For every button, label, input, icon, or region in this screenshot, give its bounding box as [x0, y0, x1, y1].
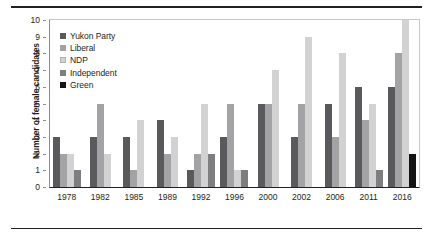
- legend-item-ndp[interactable]: NDP: [60, 55, 117, 65]
- bar-group-1985: [117, 20, 151, 187]
- bar-yukon-2000[interactable]: [258, 104, 265, 188]
- legend-item-yukon[interactable]: Yukon Party: [60, 31, 117, 41]
- bottom-rule: [11, 228, 422, 229]
- x-axis-tick-1985: 1985: [124, 192, 143, 202]
- x-axis-tick-2016: 2016: [393, 192, 412, 202]
- y-axis-tickmark-6: [43, 87, 46, 88]
- bar-group-1989: [151, 20, 185, 187]
- bar-liberal-2011[interactable]: [362, 120, 369, 187]
- bar-ndp-2000[interactable]: [272, 70, 279, 187]
- bar-liberal-1992[interactable]: [194, 154, 201, 187]
- y-axis-tickmark-0: [43, 187, 46, 188]
- bar-group-2000: [251, 20, 285, 187]
- legend-swatch-yukon-icon: [60, 33, 66, 39]
- bar-group-1996: [218, 20, 252, 187]
- x-axis-tick-1989: 1989: [158, 192, 177, 202]
- bar-liberal-2002[interactable]: [298, 104, 305, 188]
- y-axis-tickmark-8: [43, 53, 46, 54]
- x-axis-tick-1992: 1992: [191, 192, 210, 202]
- x-axis-tick-1982: 1982: [91, 192, 110, 202]
- y-axis-tick-1: 1: [35, 165, 40, 175]
- y-axis-tickmark-2: [43, 154, 46, 155]
- bar-group-1992: [184, 20, 218, 187]
- y-axis-tick-0: 0: [35, 182, 40, 192]
- bar-ndp-1989[interactable]: [171, 137, 178, 187]
- y-axis-tick-5: 5: [35, 99, 40, 109]
- x-axis-tick-2000: 2000: [259, 192, 278, 202]
- bar-liberal-2006[interactable]: [332, 137, 339, 187]
- legend-label-green: Green: [70, 80, 93, 90]
- bar-ndp-1996[interactable]: [234, 170, 241, 187]
- x-axis-tick-2011: 2011: [360, 192, 378, 202]
- bar-independent-2011[interactable]: [376, 170, 383, 187]
- bar-yukon-2011[interactable]: [355, 87, 362, 187]
- y-axis-tick-10: 10: [31, 15, 40, 25]
- y-axis-tickmark-3: [43, 137, 46, 138]
- legend-item-independent[interactable]: Independent: [60, 68, 117, 78]
- bar-ndp-1982[interactable]: [104, 154, 111, 187]
- bar-ndp-1992[interactable]: [201, 104, 208, 188]
- x-axis-tick-1978: 1978: [57, 192, 76, 202]
- y-axis-tick-2: 2: [35, 149, 40, 159]
- y-axis-tick-8: 8: [35, 48, 40, 58]
- legend-item-green[interactable]: Green: [60, 80, 117, 90]
- bar-yukon-1989[interactable]: [157, 120, 164, 187]
- bar-liberal-2000[interactable]: [265, 104, 272, 188]
- y-axis-tick-4: 4: [35, 115, 40, 125]
- legend-swatch-independent-icon: [60, 70, 66, 76]
- y-axis-tickmark-4: [43, 120, 46, 121]
- y-axis-tick-9: 9: [35, 32, 40, 42]
- bar-liberal-1985[interactable]: [130, 170, 137, 187]
- chart-legend: Yukon PartyLiberalNDPIndependentGreen: [60, 31, 117, 90]
- bar-yukon-2006[interactable]: [325, 104, 332, 188]
- y-axis-tick-3: 3: [35, 132, 40, 142]
- y-axis-tickmark-5: [43, 104, 46, 105]
- y-axis-tickmark-10: [43, 20, 46, 21]
- y-axis-tick-6: 6: [35, 82, 40, 92]
- bar-independent-1996[interactable]: [241, 170, 248, 187]
- bar-liberal-2016[interactable]: [395, 53, 402, 187]
- bar-independent-1992[interactable]: [208, 154, 215, 187]
- x-axis-tick-labels: 1978198219851989199219962000200220062011…: [50, 192, 419, 208]
- bar-ndp-2011[interactable]: [369, 104, 376, 188]
- legend-swatch-liberal-icon: [60, 45, 66, 51]
- legend-label-independent: Independent: [70, 68, 117, 78]
- bar-ndp-1978[interactable]: [67, 154, 74, 187]
- bar-group-2006: [318, 20, 352, 187]
- bar-group-2002: [285, 20, 319, 187]
- y-axis-tickmark-1: [43, 170, 46, 171]
- bar-group-2011: [352, 20, 386, 187]
- x-axis-tick-2002: 2002: [292, 192, 311, 202]
- legend-swatch-ndp-icon: [60, 57, 66, 63]
- y-axis-tick-labels: 012345678910: [0, 19, 46, 188]
- bar-liberal-1989[interactable]: [164, 154, 171, 187]
- bar-liberal-1978[interactable]: [60, 154, 67, 187]
- bar-yukon-1992[interactable]: [187, 170, 194, 187]
- bar-ndp-1985[interactable]: [137, 120, 144, 187]
- bar-liberal-1996[interactable]: [227, 104, 234, 188]
- top-rule: [11, 6, 422, 8]
- bar-ndp-2006[interactable]: [339, 53, 346, 187]
- chart-figure: Number of female candidates 012345678910…: [0, 0, 431, 235]
- legend-label-ndp: NDP: [70, 55, 88, 65]
- y-axis-tickmark-7: [43, 70, 46, 71]
- bar-yukon-2016[interactable]: [388, 87, 395, 187]
- bar-yukon-1978[interactable]: [53, 137, 60, 187]
- bar-yukon-1982[interactable]: [90, 137, 97, 187]
- legend-label-yukon: Yukon Party: [70, 31, 115, 41]
- bar-independent-1978[interactable]: [74, 170, 81, 187]
- bar-ndp-2002[interactable]: [305, 37, 312, 187]
- bar-yukon-1985[interactable]: [123, 137, 130, 187]
- y-axis-tickmark-9: [43, 37, 46, 38]
- legend-label-liberal: Liberal: [70, 43, 95, 53]
- x-axis-tick-1996: 1996: [225, 192, 244, 202]
- legend-item-liberal[interactable]: Liberal: [60, 43, 117, 53]
- bar-yukon-1996[interactable]: [220, 137, 227, 187]
- x-axis-tick-2006: 2006: [326, 192, 345, 202]
- bar-ndp-2016[interactable]: [402, 20, 409, 187]
- bar-green-2016[interactable]: [409, 154, 416, 187]
- y-axis-tick-7: 7: [35, 65, 40, 75]
- bar-group-2016: [385, 20, 419, 187]
- bar-yukon-2002[interactable]: [291, 137, 298, 187]
- bar-liberal-1982[interactable]: [97, 104, 104, 188]
